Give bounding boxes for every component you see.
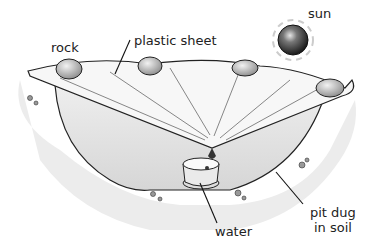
label-plastic-sheet: plastic sheet [134,33,217,48]
rock-icon [316,79,344,97]
rock-icon [138,57,162,75]
label-rock: rock [51,40,79,55]
label-pit-line1: pit dug [310,205,356,220]
rock-icon [56,59,82,79]
label-pit-line2: in soil [314,220,352,235]
label-sun: sun [308,6,331,21]
solar-still-diagram: sun rock plastic sheet water pit dug in … [0,0,387,252]
rock-icon [232,60,258,76]
label-water: water [215,224,252,239]
sun-icon [273,20,313,60]
